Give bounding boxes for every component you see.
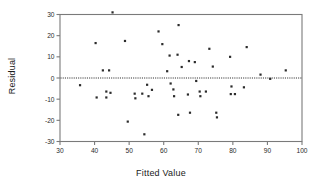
x-tick-label: 60 xyxy=(160,147,168,154)
y-tick-label: 0 xyxy=(51,75,55,82)
data-point xyxy=(194,61,196,63)
data-point xyxy=(208,48,210,50)
y-tick-label: -30 xyxy=(45,138,55,145)
data-point xyxy=(181,66,183,68)
plot-canvas: 3020100-10-20-3030405060708090100 xyxy=(0,0,322,187)
data-point xyxy=(105,96,107,98)
data-point xyxy=(177,114,179,116)
data-point xyxy=(176,54,178,56)
y-tick-label: 10 xyxy=(47,53,55,60)
data-point xyxy=(111,11,113,13)
data-point xyxy=(170,82,172,84)
data-point xyxy=(124,40,126,42)
y-tick-label: 20 xyxy=(47,32,55,39)
data-point xyxy=(230,85,232,87)
y-tick-label: -20 xyxy=(45,117,55,124)
data-point xyxy=(96,96,98,98)
data-point xyxy=(259,74,261,76)
data-point xyxy=(102,69,104,71)
data-point xyxy=(143,133,145,135)
data-point xyxy=(134,97,136,99)
x-axis: 30405060708090100 xyxy=(56,142,307,154)
data-point xyxy=(205,90,207,92)
data-point xyxy=(234,93,236,95)
x-tick-label: 70 xyxy=(195,147,203,154)
data-point xyxy=(127,121,129,123)
data-point xyxy=(187,93,189,95)
data-point xyxy=(269,78,271,80)
y-axis: 3020100-10-20-30 xyxy=(45,11,60,145)
data-point xyxy=(188,60,190,62)
x-axis-title: Fitted Value xyxy=(0,168,322,178)
data-point xyxy=(168,54,170,56)
data-point xyxy=(229,56,231,58)
data-point xyxy=(166,70,168,72)
data-point xyxy=(215,112,217,114)
data-point xyxy=(109,92,111,94)
y-tick-label: 30 xyxy=(47,11,55,18)
data-point xyxy=(157,30,159,32)
x-tick-label: 100 xyxy=(296,147,307,154)
data-point xyxy=(243,86,245,88)
data-point xyxy=(216,116,218,118)
data-point xyxy=(195,80,197,82)
data-point xyxy=(172,88,174,90)
data-point xyxy=(151,89,153,91)
y-axis-title: Residual xyxy=(7,41,17,111)
data-point xyxy=(199,90,201,92)
data-point xyxy=(189,112,191,114)
data-point xyxy=(105,90,107,92)
data-point xyxy=(173,95,175,97)
x-tick-label: 50 xyxy=(125,147,133,154)
x-tick-label: 90 xyxy=(264,147,272,154)
data-point xyxy=(141,93,143,95)
data-point xyxy=(230,93,232,95)
data-point xyxy=(285,69,287,71)
data-point xyxy=(246,46,248,48)
x-tick-label: 30 xyxy=(56,147,64,154)
y-tick-label: -10 xyxy=(45,96,55,103)
data-point xyxy=(161,43,163,45)
data-point xyxy=(108,69,110,71)
data-point xyxy=(177,24,179,26)
residual-scatter-chart: 3020100-10-20-3030405060708090100 Fitted… xyxy=(0,0,322,187)
data-point xyxy=(147,95,149,97)
data-point xyxy=(95,42,97,44)
data-point xyxy=(79,84,81,86)
data-point xyxy=(212,65,214,67)
x-tick-label: 80 xyxy=(229,147,237,154)
data-point xyxy=(134,93,136,95)
data-points xyxy=(79,11,287,135)
x-tick-label: 40 xyxy=(91,147,99,154)
data-point xyxy=(199,95,201,97)
data-point xyxy=(146,84,148,86)
